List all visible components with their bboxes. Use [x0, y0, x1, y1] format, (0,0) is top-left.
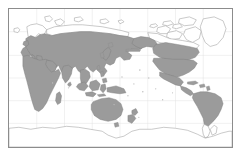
range-lesser-antilles	[206, 86, 210, 91]
islet-dot	[162, 99, 163, 100]
range-lesser-sunda	[97, 94, 106, 97]
range-cuba	[187, 81, 198, 85]
map-canvas	[9, 9, 232, 147]
islet-dot	[121, 76, 122, 77]
islet-dot	[138, 117, 139, 118]
map-frame	[8, 8, 233, 148]
range-sri-lanka	[67, 82, 71, 87]
range-hispaniola	[199, 84, 205, 88]
land-novaya-zemlya	[55, 19, 65, 26]
land-severnaya-zemlya	[74, 17, 83, 22]
islet-dot	[127, 95, 128, 96]
islet-dot	[148, 77, 149, 78]
land-svalbard	[45, 16, 53, 22]
islet-dot	[139, 69, 141, 71]
range-tasmania	[114, 122, 119, 127]
islet-dot	[52, 82, 53, 83]
land-arctic-islet-b	[173, 24, 183, 29]
world-distribution-map-figure	[0, 0, 241, 157]
range-central-america	[180, 86, 193, 96]
range-philippines-mindanao	[102, 78, 107, 83]
range-south-america	[192, 92, 223, 127]
islet-dot	[142, 91, 144, 93]
range-borneo	[89, 80, 100, 91]
land-wrangel-island	[118, 20, 124, 24]
range-hokkaido	[108, 43, 113, 48]
antarctica-group	[9, 125, 232, 147]
land-ellesmere-island	[178, 17, 196, 26]
range-sulawesi	[100, 84, 106, 93]
shaded-range-group	[21, 32, 223, 141]
islet-dot	[155, 88, 156, 89]
range-madagascar	[56, 92, 62, 105]
range-usa	[153, 58, 198, 77]
land-antarctic-peninsula	[210, 125, 217, 135]
land-arctic-islet-c	[150, 24, 158, 28]
range-new-guinea	[107, 86, 126, 94]
land-new-siberian-islands	[100, 19, 109, 24]
range-india	[62, 65, 73, 83]
land-antarctica	[9, 126, 232, 147]
land-greenland	[200, 17, 226, 47]
islet-dot	[133, 83, 134, 84]
land-baffin-island	[183, 27, 201, 43]
islet-dot	[172, 92, 173, 93]
range-australia	[91, 98, 123, 122]
land-arctic-islet-a	[163, 21, 174, 26]
range-new-zealand-south	[128, 114, 136, 123]
islet-dot	[113, 104, 114, 105]
range-java	[85, 92, 96, 97]
islet-dot	[68, 87, 69, 88]
